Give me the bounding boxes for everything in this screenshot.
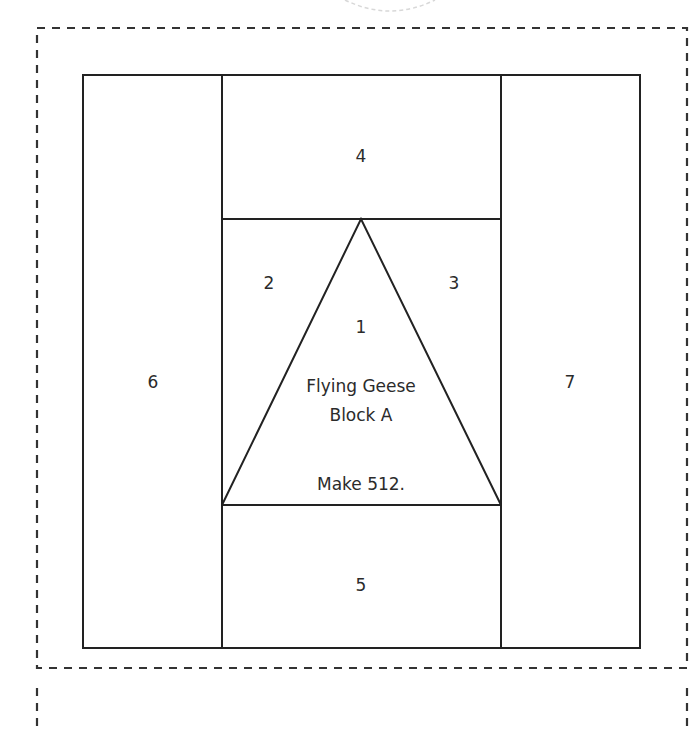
piece-label-6: 6	[148, 372, 159, 392]
piece-label-5: 5	[356, 575, 367, 595]
piece-label-4: 4	[356, 146, 367, 166]
block-name-line1: Flying Geese	[306, 376, 416, 396]
block-name-line2: Block A	[329, 405, 392, 425]
piece-label-1: 1	[356, 317, 367, 337]
faint-arc	[345, 0, 435, 11]
piece-label-7: 7	[565, 372, 576, 392]
make-instruction: Make 512.	[317, 474, 405, 494]
seam-allowance-outline	[37, 28, 687, 668]
goose-triangle	[222, 219, 501, 505]
piece-label-2: 2	[264, 273, 275, 293]
pattern-diagram: 4 2 3 1 6 7 5 Flying Geese Block A Make …	[0, 0, 692, 729]
piece-label-3: 3	[449, 273, 460, 293]
